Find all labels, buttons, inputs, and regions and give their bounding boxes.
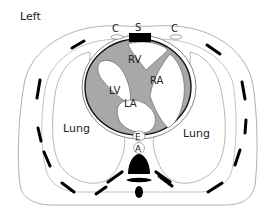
costal-cartilage-right	[170, 35, 182, 39]
costal-cartilage-left	[111, 35, 123, 39]
label-right-ventricle: RV	[128, 54, 141, 65]
spinous-process	[135, 186, 143, 198]
chest-cross-section-diagram: C S C RV RA LV LA E A Lung Lung	[0, 0, 277, 215]
label-esophagus: E	[135, 132, 141, 142]
sternum-bone	[129, 33, 151, 42]
vertebral-arch	[126, 178, 152, 183]
label-left-atrium: LA	[124, 98, 137, 109]
vertebral-body	[128, 154, 150, 174]
label-lung-left: Lung	[63, 122, 90, 135]
label-sternum: S	[135, 22, 141, 33]
label-costal-left: C	[112, 23, 119, 34]
label-aorta: A	[135, 144, 142, 154]
label-costal-right: C	[171, 23, 178, 34]
label-right-atrium: RA	[150, 75, 164, 86]
label-lung-right: Lung	[183, 127, 210, 140]
label-left-ventricle: LV	[109, 85, 120, 96]
